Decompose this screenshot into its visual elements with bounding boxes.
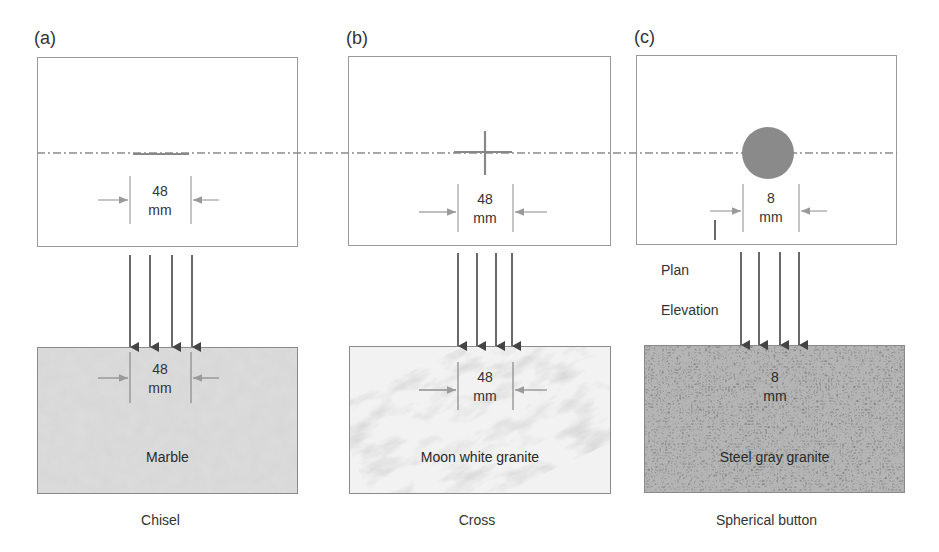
elev-dim-c-unit: mm — [750, 387, 800, 406]
plan-dim-a-unit: mm — [135, 201, 185, 220]
elevation-label: Elevation — [661, 302, 719, 318]
caption-a: Chisel — [37, 512, 298, 528]
stone-name-c: Steel gray granite — [644, 449, 905, 465]
elev-dim-a-unit: mm — [135, 379, 185, 398]
elev-dim-a: 48 mm — [135, 360, 185, 398]
plan-dim-b-value: 48 — [460, 190, 510, 209]
stone-name-b: Moon white granite — [349, 449, 611, 465]
spherical-button-shape-icon — [742, 127, 794, 179]
elev-dim-a-value: 48 — [135, 360, 185, 379]
elev-dim-b: 48 mm — [460, 368, 510, 406]
plan-dim-c-value: 8 — [746, 189, 796, 208]
elev-dim-b-unit: mm — [460, 387, 510, 406]
plan-dim-b: 48 mm — [460, 190, 510, 228]
plan-label: Plan — [661, 262, 689, 278]
stone-name-a: Marble — [37, 449, 298, 465]
plan-dim-a: 48 mm — [135, 182, 185, 220]
elev-dim-c: 8 mm — [750, 368, 800, 406]
elev-dim-b-value: 48 — [460, 368, 510, 387]
cross-shape-icon — [454, 131, 512, 175]
diagram-overlay — [0, 0, 939, 552]
plan-dim-c-unit: mm — [746, 208, 796, 227]
plan-dim-c: 8 mm — [746, 189, 796, 227]
force-arrows-b — [458, 253, 512, 346]
caption-c: Spherical button — [636, 512, 897, 528]
plan-dim-a-value: 48 — [135, 182, 185, 201]
force-arrows-a — [130, 255, 192, 347]
force-arrows-c — [741, 252, 799, 345]
elev-dim-c-value: 8 — [750, 368, 800, 387]
plan-dim-b-unit: mm — [460, 209, 510, 228]
caption-b: Cross — [349, 512, 611, 528]
